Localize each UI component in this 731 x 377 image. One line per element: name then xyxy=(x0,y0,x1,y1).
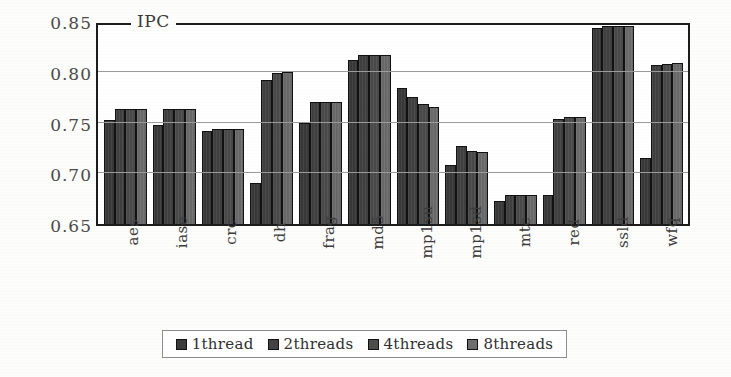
bar-crc-2threads[interactable] xyxy=(212,129,223,224)
y-axis-tick-label: 0.70 xyxy=(50,165,92,185)
bar-iase-1thread[interactable] xyxy=(153,125,164,224)
x-axis-label-frag: frag xyxy=(320,215,338,248)
bar-ssld-8threads[interactable] xyxy=(624,26,635,224)
x-axis-label-mtc: mtc xyxy=(516,217,534,247)
bar-frag-2threads[interactable] xyxy=(310,102,321,224)
legend-label: 2threads xyxy=(284,335,354,353)
bar-group-mtc xyxy=(491,25,540,224)
gridline xyxy=(98,71,688,72)
bar-red-1thread[interactable] xyxy=(543,195,554,224)
bar-group-iase xyxy=(150,25,199,224)
x-axis-label-cell: red xyxy=(541,228,590,318)
bar-mtc-2threads[interactable] xyxy=(505,195,516,224)
x-axis-label-cell: md5 xyxy=(344,228,393,318)
bar-dh-2threads[interactable] xyxy=(261,80,272,224)
legend-item-4threads[interactable]: 4threads xyxy=(368,335,454,353)
x-axis-label-md5: md5 xyxy=(369,215,387,250)
bar-frag-8threads[interactable] xyxy=(331,102,342,224)
bar-iase-4threads[interactable] xyxy=(174,109,185,224)
bar-group-aes xyxy=(101,25,150,224)
x-axis-label-cell: aes xyxy=(99,228,148,318)
bar-aes-4threads[interactable] xyxy=(125,109,136,224)
bar-group-wfq xyxy=(637,25,686,224)
x-axis-label-mp1su: mp1su xyxy=(418,205,436,258)
y-axis-tick-label: 0.80 xyxy=(50,64,92,84)
gridline xyxy=(98,172,688,173)
legend-label: 8threads xyxy=(483,335,553,353)
bar-group-dh xyxy=(247,25,296,224)
bar-group-frag xyxy=(296,25,345,224)
y-axis-tick-labels: 0.650.700.750.800.85 xyxy=(30,0,92,240)
chart-title: IPC xyxy=(131,11,176,31)
bar-md5-2threads[interactable] xyxy=(358,55,369,225)
x-axis-label-mp1sd: mp1sd xyxy=(467,205,485,258)
legend-swatch-icon xyxy=(268,339,279,350)
bar-group-mp1sd xyxy=(442,25,491,224)
x-axis-label-iase: iase xyxy=(173,216,191,248)
legend: 1thread2threads4threads8threads xyxy=(162,330,567,358)
x-axis-label-cell: crc xyxy=(197,228,246,318)
legend-swatch-icon xyxy=(467,339,478,350)
bar-aes-2threads[interactable] xyxy=(115,109,126,224)
bar-iase-8threads[interactable] xyxy=(185,109,196,224)
bar-crc-1thread[interactable] xyxy=(202,131,213,224)
x-axis-label-cell: mp1sd xyxy=(443,228,492,318)
bar-group-ssld xyxy=(589,25,638,224)
legend-item-1thread[interactable]: 1thread xyxy=(176,335,254,353)
bar-crc-8threads[interactable] xyxy=(234,129,245,224)
bar-groups xyxy=(98,25,688,224)
bar-mp1sd-1thread[interactable] xyxy=(445,165,456,224)
x-axis-label-wfq: wfq xyxy=(663,217,681,247)
bar-red-8threads[interactable] xyxy=(575,117,586,224)
bar-ssld-1thread[interactable] xyxy=(592,28,603,224)
bar-wfq-1thread[interactable] xyxy=(640,158,651,224)
bar-group-crc xyxy=(199,25,248,224)
gridline xyxy=(98,122,688,123)
x-axis-label-aes: aes xyxy=(124,218,142,245)
bar-mtc-1thread[interactable] xyxy=(494,201,505,224)
bar-crc-4threads[interactable] xyxy=(223,129,234,224)
bar-group-mp1su xyxy=(394,25,443,224)
x-axis-label-cell: dh xyxy=(246,228,295,318)
bar-aes-8threads[interactable] xyxy=(136,109,147,224)
x-axis-label-dh: dh xyxy=(271,222,289,242)
bar-mp1su-2threads[interactable] xyxy=(407,97,418,224)
bar-red-4threads[interactable] xyxy=(564,117,575,224)
legend-swatch-icon xyxy=(176,339,187,350)
plot-area xyxy=(96,23,690,226)
chart-figure: 0.650.700.750.800.85 IPC aesiasecrcdhfra… xyxy=(0,0,731,377)
bar-md5-8threads[interactable] xyxy=(380,55,391,225)
bar-wfq-2threads[interactable] xyxy=(651,65,662,224)
legend-item-8threads[interactable]: 8threads xyxy=(467,335,553,353)
legend-label: 4threads xyxy=(384,335,454,353)
bar-iase-2threads[interactable] xyxy=(163,109,174,224)
bar-mp1sd-2threads[interactable] xyxy=(456,146,467,224)
bar-frag-1thread[interactable] xyxy=(299,123,310,225)
legend-label: 1thread xyxy=(192,335,254,353)
legend-swatch-icon xyxy=(368,339,379,350)
y-axis-tick-label: 0.65 xyxy=(50,216,92,236)
bar-wfq-8threads[interactable] xyxy=(672,63,683,224)
bar-dh-8threads[interactable] xyxy=(282,72,293,224)
bar-ssld-2threads[interactable] xyxy=(602,26,613,224)
bar-md5-1thread[interactable] xyxy=(348,60,359,224)
x-axis-label-cell: frag xyxy=(295,228,344,318)
bar-wfq-4threads[interactable] xyxy=(662,64,673,224)
x-axis-label-red: red xyxy=(565,218,583,245)
x-axis-label-ssld: ssld xyxy=(614,216,632,248)
bar-dh-4threads[interactable] xyxy=(272,73,283,224)
y-axis-tick-label: 0.75 xyxy=(50,115,92,135)
bar-md5-4threads[interactable] xyxy=(369,55,380,225)
x-axis-label-crc: crc xyxy=(222,219,240,244)
bar-group-red xyxy=(540,25,589,224)
bar-frag-4threads[interactable] xyxy=(320,102,331,224)
bar-dh-1thread[interactable] xyxy=(250,183,261,224)
x-axis-category-labels: aesiasecrcdhfragmd5mp1sump1sdmtcredssldw… xyxy=(96,228,690,318)
x-axis-label-cell: iase xyxy=(148,228,197,318)
bar-mp1su-1thread[interactable] xyxy=(397,88,408,224)
y-axis-tick-label: 0.85 xyxy=(50,13,92,33)
x-axis-label-cell: wfq xyxy=(639,228,688,318)
legend-item-2threads[interactable]: 2threads xyxy=(268,335,354,353)
x-axis-label-cell: mtc xyxy=(492,228,541,318)
bar-ssld-4threads[interactable] xyxy=(613,26,624,224)
